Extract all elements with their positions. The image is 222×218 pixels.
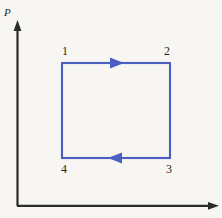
cycle-rectangle xyxy=(62,63,170,158)
state-label-1: 1 xyxy=(62,45,68,57)
pressure-axis-arrowhead xyxy=(14,20,22,31)
state-label-2: 2 xyxy=(164,45,170,57)
top-arrow-right-icon xyxy=(110,57,124,68)
pressure-axis xyxy=(14,20,22,206)
pressure-axis-label: P xyxy=(4,7,11,18)
pv-cycle-diagram: P 1 2 3 4 xyxy=(0,0,222,218)
volume-axis-arrowhead xyxy=(208,202,219,210)
state-label-4: 4 xyxy=(61,163,67,175)
state-label-3: 3 xyxy=(166,163,172,175)
bottom-arrow-left-icon xyxy=(108,152,122,163)
cycle-path xyxy=(62,57,170,163)
volume-axis xyxy=(17,202,219,210)
diagram-canvas xyxy=(0,0,222,218)
